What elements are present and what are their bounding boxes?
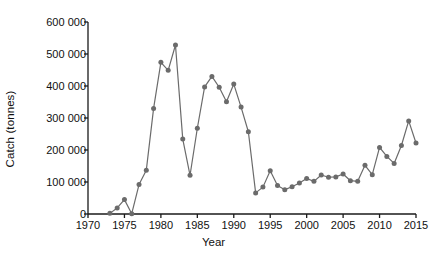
data-point — [137, 182, 142, 187]
data-point — [253, 190, 258, 195]
data-point — [166, 68, 171, 73]
data-point — [304, 176, 309, 181]
data-point — [333, 174, 338, 179]
data-point — [151, 106, 156, 111]
data-point — [246, 129, 251, 134]
data-point — [224, 99, 229, 104]
data-point — [173, 43, 178, 48]
data-point — [377, 145, 382, 150]
data-point — [217, 85, 222, 90]
data-point — [188, 173, 193, 178]
data-point — [209, 74, 214, 79]
data-point — [268, 168, 273, 173]
data-point — [129, 211, 134, 216]
data-point — [107, 211, 112, 216]
data-point — [144, 168, 149, 173]
data-point — [399, 143, 404, 148]
data-point — [384, 154, 389, 159]
data-point — [319, 172, 324, 177]
data-point — [239, 105, 244, 110]
data-point — [341, 172, 346, 177]
data-point — [311, 179, 316, 184]
data-point — [392, 161, 397, 166]
data-point — [355, 179, 360, 184]
data-point — [195, 126, 200, 131]
data-point — [326, 175, 331, 180]
data-point — [370, 172, 375, 177]
data-point — [414, 140, 419, 145]
axis-tick-marks — [84, 22, 416, 218]
data-point — [180, 137, 185, 142]
data-point — [297, 180, 302, 185]
data-point — [406, 118, 411, 123]
data-point — [231, 82, 236, 87]
data-point — [282, 187, 287, 192]
data-point-markers — [107, 43, 418, 217]
data-point — [158, 60, 163, 65]
data-point — [122, 197, 127, 202]
data-point — [290, 184, 295, 189]
data-point — [202, 84, 207, 89]
data-point — [348, 178, 353, 183]
data-point — [115, 205, 120, 210]
data-point — [275, 183, 280, 188]
data-point — [362, 163, 367, 168]
data-point — [260, 185, 265, 190]
